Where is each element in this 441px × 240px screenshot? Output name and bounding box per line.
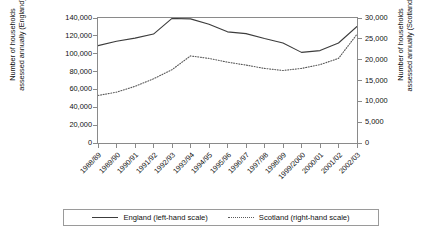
series-line-england (98, 18, 357, 52)
series-canvas (98, 18, 357, 143)
x-tick-mark (283, 144, 284, 148)
left-axis-title-line2: assessed annually (England) (18, 0, 27, 108)
y-tick-mark-left (93, 71, 97, 72)
y-tick-label-left: 140,000 (65, 14, 92, 21)
y-tick-label-right: 20,000 (365, 56, 388, 63)
x-tick-mark (320, 144, 321, 148)
y-tick-label-left: 60,000 (69, 85, 92, 92)
x-tick-mark (338, 144, 339, 148)
x-tick-mark (172, 144, 173, 148)
plot-area (97, 17, 358, 144)
y-tick-mark-right (358, 122, 362, 123)
y-tick-label-right: 15,000 (365, 77, 388, 84)
left-axis-title: Number of households assessed annually (… (9, 0, 26, 108)
y-tick-label-left: 120,000 (65, 32, 92, 39)
x-tick-mark (153, 144, 154, 148)
y-tick-mark-left (93, 53, 97, 54)
right-axis-title: Number of households assessed annually (… (397, 0, 414, 108)
y-tick-mark-left (93, 107, 97, 108)
y-tick-mark-right (358, 80, 362, 81)
x-tick-mark (227, 144, 228, 148)
y-tick-label-right: 30,000 (365, 14, 388, 21)
x-tick-mark (98, 144, 99, 148)
y-tick-label-right: 5,000 (365, 118, 384, 125)
y-tick-label-right: 25,000 (365, 35, 388, 42)
legend-item-england: England (left-hand scale) (92, 213, 207, 222)
y-tick-mark-right (358, 143, 362, 144)
legend-label-england: England (left-hand scale) (123, 213, 207, 222)
right-axis-title-line2: assessed annually (Scotland) (406, 0, 415, 108)
x-tick-mark (357, 144, 358, 148)
y-tick-mark-left (93, 35, 97, 36)
x-tick-mark (264, 144, 265, 148)
x-tick-mark (116, 144, 117, 148)
y-tick-mark-right (358, 38, 362, 39)
y-tick-mark-right (358, 101, 362, 102)
y-tick-mark-left (93, 89, 97, 90)
chart-legend: England (left-hand scale) Scotland (righ… (63, 209, 379, 226)
y-tick-mark-right (358, 18, 362, 19)
x-tick-mark (246, 144, 247, 148)
y-tick-label-left: 40,000 (69, 103, 92, 110)
legend-label-scotland: Scotland (right-hand scale) (259, 213, 350, 222)
legend-swatch-solid-line-icon (92, 214, 118, 221)
y-tick-label-right: 10,000 (365, 97, 388, 104)
y-tick-label-left: 20,000 (69, 121, 92, 128)
legend-item-scotland: Scotland (right-hand scale) (228, 213, 350, 222)
legend-swatch-dotted-line-icon (228, 214, 254, 221)
y-tick-mark-left (93, 18, 97, 19)
x-tick-mark (301, 144, 302, 148)
y-tick-mark-left (93, 143, 97, 144)
series-line-scotland (98, 34, 357, 95)
y-tick-mark-left (93, 125, 97, 126)
y-tick-label-right: 0 (365, 139, 369, 146)
x-tick-mark (209, 144, 210, 148)
chart-figure: Number of households assessed annually (… (0, 0, 441, 240)
y-tick-label-left: 0 (88, 139, 92, 146)
y-tick-label-left: 100,000 (65, 50, 92, 57)
y-tick-mark-right (358, 59, 362, 60)
x-tick-mark (190, 144, 191, 148)
x-tick-mark (135, 144, 136, 148)
y-tick-label-left: 80,000 (69, 68, 92, 75)
